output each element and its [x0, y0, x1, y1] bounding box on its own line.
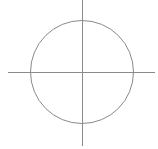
diagram-canvas — [0, 0, 158, 149]
